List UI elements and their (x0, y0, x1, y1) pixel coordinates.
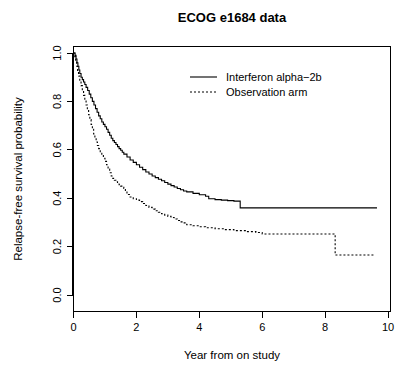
y-tick-label: 0.0 (51, 287, 63, 302)
y-axis-ticks: 0.00.20.40.60.81.0 (51, 45, 73, 302)
legend-label: Interferon alpha−2b (226, 71, 322, 83)
y-tick-label: 0.6 (51, 142, 63, 157)
y-tick-label: 1.0 (51, 45, 63, 60)
y-tick-label: 0.4 (51, 191, 63, 206)
y-axis-title: Relapse-free survival probability (12, 97, 24, 261)
survival-plot-figure: ECOG e1684 data 0246810 0.00.20.40.60.81… (0, 0, 415, 380)
x-tick-label: 0 (70, 321, 76, 333)
x-tick-label: 8 (322, 321, 328, 333)
series-line-2 (74, 53, 376, 255)
x-axis-title: Year from on study (184, 349, 280, 361)
x-tick-label: 2 (133, 321, 139, 333)
data-series-group (74, 53, 377, 255)
legend: Interferon alpha−2bObservation arm (190, 71, 322, 98)
y-tick-label: 0.8 (51, 94, 63, 109)
legend-label: Observation arm (226, 86, 307, 98)
x-tick-label: 6 (259, 321, 265, 333)
x-axis-ticks: 0246810 (70, 312, 394, 334)
plot-canvas: ECOG e1684 data 0246810 0.00.20.40.60.81… (0, 0, 415, 380)
x-tick-label: 10 (382, 321, 394, 333)
y-tick-label: 0.2 (51, 239, 63, 254)
page-title: ECOG e1684 data (178, 10, 287, 25)
x-tick-label: 4 (196, 321, 202, 333)
